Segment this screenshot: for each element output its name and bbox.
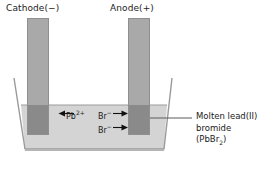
br-ion-arrow-1 — [113, 111, 128, 117]
callout-formula-suffix: ) — [223, 134, 226, 144]
br-ion-symbol-2: Br — [98, 126, 107, 135]
diagram-canvas: Cathode(−) Anode(+) Pb2+ Br− Br− Molten … — [0, 0, 271, 170]
br-ion-charge-1: − — [107, 109, 112, 116]
callout-formula-prefix: (PbBr — [196, 134, 219, 144]
br-ion-charge-2: − — [107, 123, 112, 130]
pb-ion-label: Pb2+ — [66, 110, 85, 121]
anode-label: Anode(+) — [110, 4, 154, 13]
pb-ion-charge: 2+ — [76, 109, 85, 116]
cathode-label: Cathode(−) — [6, 4, 59, 13]
br-ion-arrow-2 — [113, 125, 128, 131]
br-ion-label-1: Br− — [98, 110, 112, 121]
callout-line-1: Molten lead(II) — [196, 111, 270, 123]
pb-ion-symbol: Pb — [66, 112, 76, 121]
callout-line-2: bromide — [196, 123, 270, 135]
anode-submerged-section — [129, 105, 149, 134]
cathode-submerged-section — [28, 105, 48, 134]
electrolyte-callout: Molten lead(II) bromide (PbBr2) — [196, 111, 270, 148]
br-ion-symbol-1: Br — [98, 112, 107, 121]
callout-formula: (PbBr2) — [196, 134, 270, 148]
br-ion-label-2: Br− — [98, 124, 112, 135]
